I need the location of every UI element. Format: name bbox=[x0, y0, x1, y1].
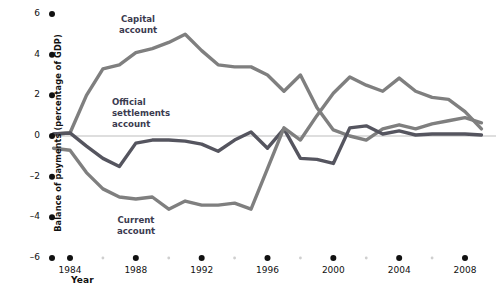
y-tick-dot bbox=[49, 255, 55, 261]
annotation-current-account: Current account bbox=[106, 215, 166, 237]
series-line-official-settlements-account bbox=[54, 126, 482, 167]
y-tick-label: 2 bbox=[18, 89, 40, 99]
x-tick-label: 1984 bbox=[50, 265, 90, 275]
y-tick-label: 4 bbox=[18, 49, 40, 59]
y-tick-label: –4 bbox=[18, 211, 40, 221]
y-tick-label: –2 bbox=[18, 171, 40, 181]
annotation-official-settlements-account: Official settlements account bbox=[112, 97, 178, 130]
x-minor-dot bbox=[233, 257, 236, 260]
x-tick-label: 2000 bbox=[313, 265, 353, 275]
x-tick-dot bbox=[67, 255, 73, 261]
x-tick-dot bbox=[330, 255, 336, 261]
x-tick-dot bbox=[199, 255, 205, 261]
x-minor-dot bbox=[365, 257, 368, 260]
x-tick-label: 1996 bbox=[248, 265, 288, 275]
chart-plot-area bbox=[0, 0, 496, 300]
y-axis-title: Balance of payments (percentage of GDP) bbox=[53, 23, 63, 243]
x-tick-label: 2004 bbox=[379, 265, 419, 275]
x-tick-label: 1988 bbox=[116, 265, 156, 275]
balance-of-payments-chart: Balance of payments (percentage of GDP) … bbox=[0, 0, 496, 300]
x-minor-dot bbox=[167, 257, 170, 260]
x-minor-dot bbox=[102, 257, 105, 260]
x-tick-label: 1992 bbox=[182, 265, 222, 275]
x-tick-dot bbox=[133, 255, 139, 261]
x-tick-dot bbox=[462, 255, 468, 261]
x-minor-dot bbox=[431, 257, 434, 260]
annotation-capital-account: Capital account bbox=[108, 14, 168, 36]
y-tick-dot bbox=[49, 11, 55, 17]
x-tick-label: 2008 bbox=[445, 265, 485, 275]
x-tick-dot bbox=[265, 255, 271, 261]
y-tick-label: –6 bbox=[18, 252, 40, 262]
x-tick-dot bbox=[396, 255, 402, 261]
x-axis-title: Year bbox=[71, 275, 94, 285]
y-tick-label: 0 bbox=[18, 130, 40, 140]
y-tick-label: 6 bbox=[18, 8, 40, 18]
x-minor-dot bbox=[299, 257, 302, 260]
